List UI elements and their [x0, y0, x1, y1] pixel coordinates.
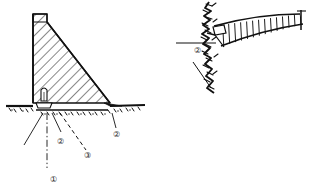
figure-canvas: ① ② ③ ② ②	[0, 0, 313, 192]
drawing-surface	[0, 0, 313, 192]
callout-1-label: ①	[50, 176, 57, 184]
dam-arc-downstream	[221, 24, 303, 46]
abutment-block	[213, 25, 226, 35]
callout-2b-label: ②	[113, 131, 120, 139]
leader-line-a	[24, 113, 43, 145]
heel-footing	[36, 103, 52, 108]
ground-line-right	[110, 105, 145, 106]
leader-line-callout-2b	[112, 113, 116, 128]
gravity-dam-cross-section	[6, 10, 145, 168]
callout-3-label: ③	[84, 152, 91, 160]
dam-arc-upstream	[214, 14, 300, 26]
leader-line-callout-2a	[52, 113, 61, 132]
foundation-stipple	[9, 107, 140, 115]
callout-2a-label: ②	[57, 138, 64, 146]
callout-right-2-label: ②	[194, 47, 201, 55]
